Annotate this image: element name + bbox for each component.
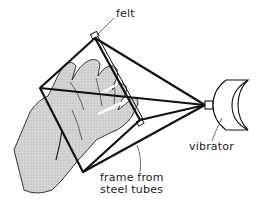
frame-label-line2: steel tubes — [100, 184, 156, 196]
vibrator — [205, 80, 248, 130]
frame-label: frame from steel tubes — [100, 172, 156, 196]
vibrator-label: vibrator — [189, 141, 234, 153]
felt-label: felt — [116, 8, 135, 20]
vibration-apparatus-diagram: felt vibrator frame from steel tubes — [0, 0, 265, 211]
